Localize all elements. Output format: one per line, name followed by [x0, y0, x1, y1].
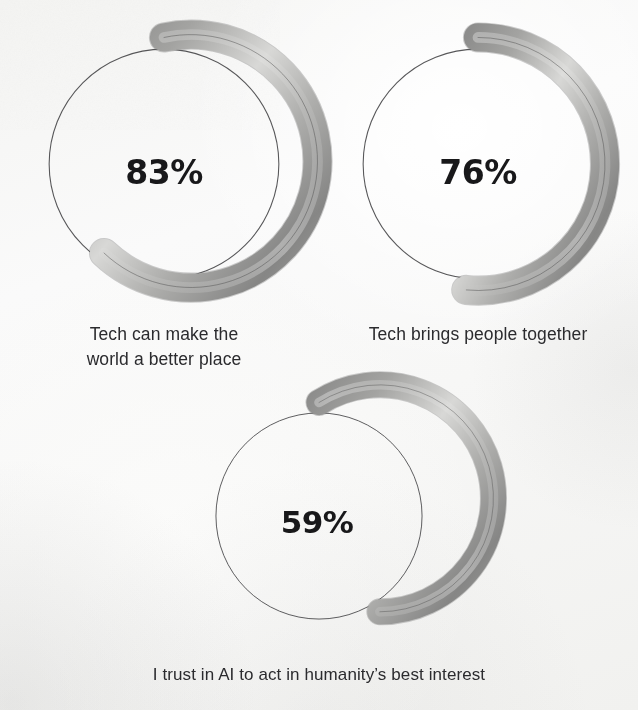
radial-gauge-tech-better-place: 83% — [18, 18, 310, 310]
gauge-card-tech-better-place: 83% Tech can make the world a better pla… — [8, 18, 320, 372]
gauge-value-label: 83% — [18, 156, 310, 189]
gauge-value-label: 59% — [184, 507, 450, 538]
gauge-caption: Tech can make the world a better place — [87, 322, 242, 372]
gauge-caption: Tech brings people together — [369, 322, 588, 347]
gauge-board: 83% Tech can make the world a better pla… — [0, 0, 638, 710]
gauge-progress-arc — [319, 385, 493, 612]
gauge-card-tech-brings-together: 76% Tech brings people together — [322, 18, 634, 347]
gauge-card-trust-ai: 59% I trust in AI to act in humanity’s b… — [163, 385, 475, 687]
gauge-value-label: 76% — [332, 156, 624, 189]
radial-gauge-tech-brings-together: 76% — [332, 18, 624, 310]
gauge-caption: I trust in AI to act in humanity’s best … — [104, 663, 534, 687]
radial-gauge-trust-ai: 59% — [188, 385, 450, 647]
